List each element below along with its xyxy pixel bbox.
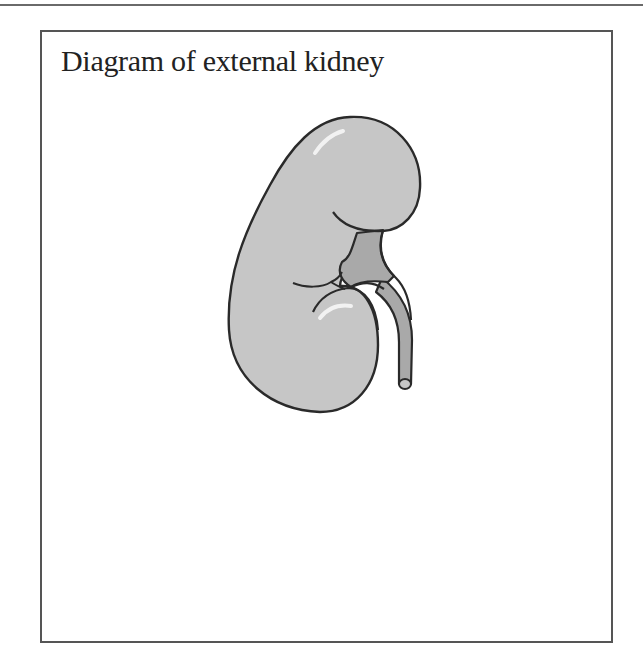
kidney-illustration	[0, 0, 643, 655]
ureter-opening	[399, 379, 411, 389]
kidney-body	[229, 117, 420, 412]
